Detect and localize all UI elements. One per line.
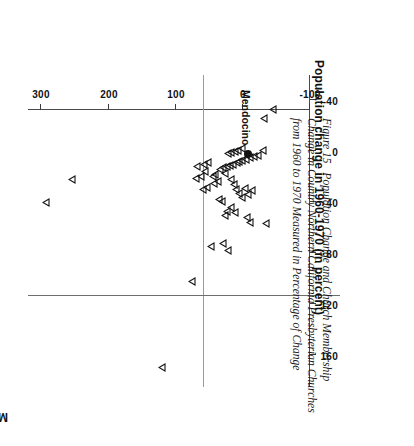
membership-tick-label: 200 xyxy=(95,89,123,100)
data-point xyxy=(248,186,256,195)
data-point xyxy=(218,197,226,206)
membership-tick xyxy=(175,104,176,110)
membership-tick xyxy=(108,104,109,110)
membership-tick-label: 100 xyxy=(162,89,190,100)
data-point xyxy=(224,246,232,255)
data-point xyxy=(68,175,76,184)
figure-number: Figure 15 xyxy=(320,118,333,164)
data-point xyxy=(204,158,212,167)
data-point xyxy=(231,208,239,217)
figure-caption: Figure 15 Population Change and Church M… xyxy=(288,118,334,418)
membership-axis-title: Membership change in 1960-1970 (in perce… xyxy=(0,410,8,424)
data-point xyxy=(207,242,215,251)
data-point xyxy=(192,174,200,183)
data-point xyxy=(158,363,166,372)
data-point xyxy=(188,277,196,286)
data-point-label: Mendocino xyxy=(240,90,252,145)
membership-tick-label: 300 xyxy=(27,89,55,100)
membership-zero-rule xyxy=(203,75,204,387)
figure-page: -4004080120160 -1000100200300 Mendocino … xyxy=(0,0,414,446)
data-point xyxy=(246,218,254,227)
data-point xyxy=(42,198,50,207)
figure-caption-wrap: Figure 15 Population Change and Church M… xyxy=(258,0,336,446)
membership-tick xyxy=(40,104,41,110)
